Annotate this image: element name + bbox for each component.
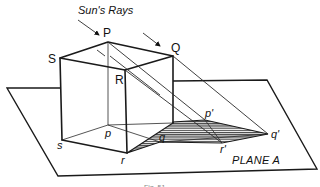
figure-caption: Fig. 51 [144, 184, 166, 187]
vertex-label-P: P [103, 26, 111, 40]
vertex-label-S: S [48, 52, 56, 66]
edge-S-s [60, 58, 62, 140]
vertex-label-q: q [159, 131, 166, 143]
shadow-label-q-prime: q' [271, 128, 280, 140]
sun-ray-arrow-2 [143, 33, 160, 46]
sun-rays-label: Sun's Rays [78, 4, 134, 16]
sun-shadow-diagram: Sun's Rays P Q R S p q r s p' q' r' PLAN… [0, 0, 320, 187]
vertex-label-Q: Q [171, 41, 180, 55]
plane-a-label: PLANE A [232, 154, 280, 166]
sun-ray-arrow-3 [97, 50, 105, 56]
base-edge-s-r [62, 140, 127, 153]
base-edge-p-qline [108, 125, 160, 142]
vertex-label-p: p [104, 127, 111, 139]
base-edge-p-q-hidden [108, 123, 173, 125]
shadow-label-p-prime: p' [204, 107, 214, 119]
top-face-PQRS [60, 42, 173, 70]
edge-R-r [125, 70, 127, 153]
shadow-label-r-prime: r' [220, 143, 227, 155]
sun-ray-arrow-1 [78, 20, 99, 35]
vertex-label-s: s [57, 139, 63, 151]
vertex-label-R: R [115, 73, 124, 87]
base-edge-s-p-hidden [62, 125, 108, 140]
vertex-label-r: r [121, 154, 126, 166]
